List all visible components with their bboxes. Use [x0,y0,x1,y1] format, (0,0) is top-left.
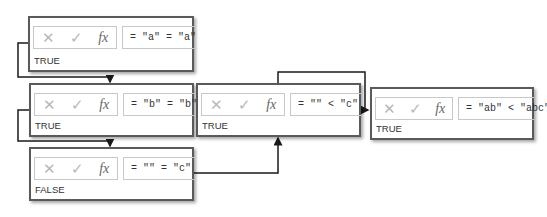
formula-panel-4: ✕ ✓ fx = "" < "c" TRUE [196,83,361,137]
formula-panel-5: ✕ ✓ fx = "ab" < "abc" TRUE [370,87,534,140]
function-icon[interactable]: fx [99,161,109,177]
function-icon[interactable]: fx [266,97,276,113]
enter-icon[interactable]: ✓ [71,160,84,178]
formula-input[interactable]: = "" < "c" [290,93,361,116]
function-icon[interactable]: fx [99,97,109,113]
cancel-icon[interactable]: ✕ [383,100,396,118]
cancel-icon[interactable]: ✕ [43,96,56,114]
cell-result: TRUE [34,55,60,66]
formula-panel-3: ✕ ✓ fx = "" = "c" FALSE [29,147,194,201]
enter-icon[interactable]: ✓ [70,29,83,47]
enter-icon[interactable]: ✓ [71,96,84,114]
enter-icon[interactable]: ✓ [409,100,422,118]
cell-result: TRUE [376,123,402,134]
formula-bar-buttons: ✕ ✓ fx [34,93,118,116]
cancel-icon[interactable]: ✕ [42,29,55,47]
enter-icon[interactable]: ✓ [238,96,251,114]
formula-bar-buttons: ✕ ✓ fx [34,157,118,180]
cancel-icon[interactable]: ✕ [210,96,223,114]
function-icon[interactable]: fx [98,30,108,46]
formula-panel-2: ✕ ✓ fx = "b" = "b" TRUE [29,83,194,137]
cell-result: TRUE [35,120,61,131]
formula-bar-buttons: ✕ ✓ fx [375,97,453,120]
formula-input[interactable]: = "" = "c" [123,157,194,180]
cell-result: FALSE [35,184,65,195]
cell-result: TRUE [202,120,228,131]
formula-input[interactable]: = "ab" < "abc" [458,97,534,120]
formula-input[interactable]: = "a" = "a" [122,26,194,49]
formula-panel-1: ✕ ✓ fx = "a" = "a" TRUE [28,16,194,72]
formula-bar-buttons: ✕ ✓ fx [33,26,117,49]
formula-bar-buttons: ✕ ✓ fx [201,93,285,116]
cancel-icon[interactable]: ✕ [43,160,56,178]
formula-input[interactable]: = "b" = "b" [123,93,194,116]
function-icon[interactable]: fx [435,101,445,117]
